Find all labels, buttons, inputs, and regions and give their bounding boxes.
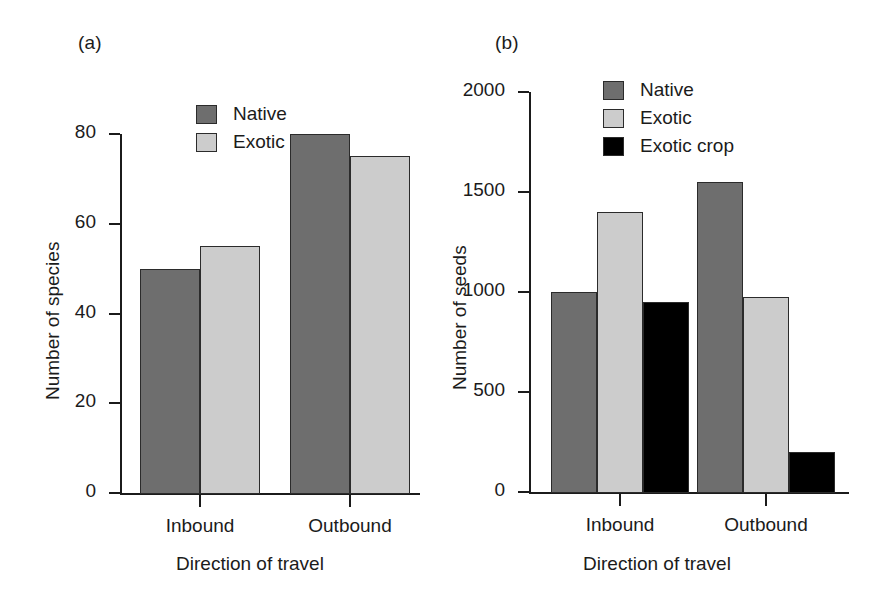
legend-label: Native (233, 103, 287, 125)
y-axis-tick-label: 60 (62, 211, 96, 233)
y-axis-tick-label: 500 (449, 379, 505, 401)
bar (350, 156, 410, 494)
bar (643, 302, 689, 493)
legend-swatch-icon (603, 109, 624, 128)
x-axis-tick-label: Inbound (120, 515, 280, 537)
y-axis-tick (518, 491, 529, 493)
x-axis-tick (349, 495, 351, 507)
legend-label: Exotic (233, 131, 285, 153)
legend-row: Exotic (603, 104, 734, 132)
y-axis-tick-label: 0 (449, 479, 505, 501)
legend-swatch-icon (603, 137, 624, 156)
panel-b-label: (b) (495, 32, 519, 54)
y-axis-tick (518, 291, 529, 293)
x-axis-tick-label: Inbound (540, 514, 700, 536)
x-axis-tick-label: Outbound (686, 514, 846, 536)
bar (551, 292, 597, 493)
legend-swatch-icon (196, 133, 217, 152)
x-axis-tick (199, 495, 201, 507)
legend-swatch-icon (196, 105, 217, 124)
y-axis-tick-label: 2000 (449, 79, 505, 101)
y-axis-tick-label: 20 (62, 390, 96, 412)
x-axis-tick-label: Outbound (270, 515, 430, 537)
y-axis-tick (518, 91, 529, 93)
y-axis-tick (109, 223, 120, 225)
panel-a-legend: NativeExotic (196, 100, 287, 156)
legend-row: Exotic (196, 128, 287, 156)
legend-label: Native (640, 79, 694, 101)
figure-container: (a) Number of species 020406080InboundOu… (0, 0, 873, 599)
y-axis-tick (109, 492, 120, 494)
panel-b-x-axis-label: Direction of travel (527, 553, 787, 575)
panel-a: (a) Number of species 020406080InboundOu… (0, 0, 437, 599)
panel-b-y-axis-label: Number of seeds (449, 245, 471, 390)
y-axis-line (529, 92, 531, 492)
panel-b-legend: NativeExoticExotic crop (603, 76, 734, 160)
y-axis-line (120, 134, 122, 493)
y-axis-tick-label: 80 (62, 121, 96, 143)
bar (697, 182, 743, 493)
panel-b: (b) Number of seeds 0500100015002000Inbo… (437, 0, 873, 599)
y-axis-tick (518, 391, 529, 393)
y-axis-tick-label: 40 (62, 301, 96, 323)
bar (140, 269, 200, 494)
legend-label: Exotic (640, 107, 692, 129)
panel-a-x-axis-label: Direction of travel (120, 553, 380, 575)
y-axis-tick (109, 133, 120, 135)
legend-row: Native (603, 76, 734, 104)
bar (597, 212, 643, 493)
bar (743, 297, 789, 493)
y-axis-tick (109, 402, 120, 404)
x-axis-tick (619, 494, 621, 506)
legend-row: Native (196, 100, 287, 128)
x-axis-tick (765, 494, 767, 506)
bar (789, 452, 835, 493)
y-axis-tick-label: 1500 (449, 179, 505, 201)
panel-a-y-axis-label: Number of species (42, 242, 64, 400)
legend-row: Exotic crop (603, 132, 734, 160)
legend-label: Exotic crop (640, 135, 734, 157)
y-axis-tick (518, 191, 529, 193)
y-axis-tick (109, 313, 120, 315)
y-axis-tick-label: 1000 (449, 279, 505, 301)
legend-swatch-icon (603, 81, 624, 100)
y-axis-tick-label: 0 (62, 480, 96, 502)
bar (200, 246, 260, 494)
bar (290, 134, 350, 494)
panel-a-label: (a) (78, 32, 102, 54)
